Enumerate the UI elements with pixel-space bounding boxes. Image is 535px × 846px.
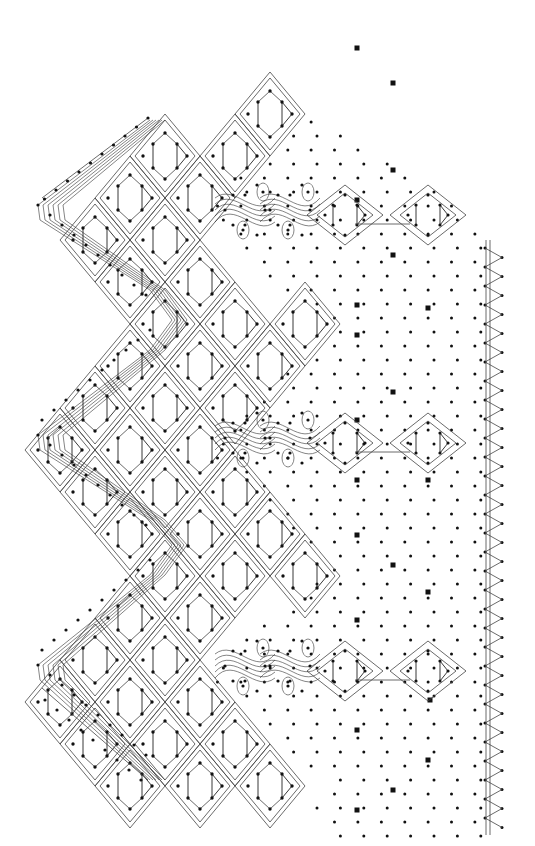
ground-pin [403,569,406,572]
cell-pin [80,448,83,451]
ground-pin [333,821,336,824]
headside-pin [91,738,94,741]
ground-pin [456,639,459,642]
square-marker-pin [355,303,360,308]
ground-pin [479,779,482,782]
ground-pin [409,807,412,810]
square-marker-pin [426,758,431,763]
ground-pin [409,219,412,222]
cell-pin [186,352,189,355]
square-marker-pin [355,808,360,813]
headside-pin [148,328,151,331]
ground-pin [333,345,336,348]
cell-pin [81,670,84,673]
ground-pin [479,807,482,810]
cell-pin [116,544,119,547]
cell-pin [128,303,131,306]
cell-pin [186,712,189,715]
cell-pin [163,177,166,180]
ground-pin [356,737,359,740]
ground-pin [409,611,412,614]
cell-pin [185,574,188,577]
cell-pin [175,730,178,733]
ground-pin [356,541,359,544]
ground-pin [269,695,272,698]
cell-pin [128,807,131,810]
ground-pin [316,191,319,194]
ground-pin [433,247,436,250]
ground-pin [450,373,453,376]
ground-pin [316,275,319,278]
ground-pin [333,373,336,376]
ground-pin [356,597,359,600]
cell-pin [221,166,224,169]
ground-pin [239,233,242,236]
ground-pin [339,471,342,474]
ground-pin [456,415,459,418]
ground-pin [333,765,336,768]
cell-pin [106,196,109,199]
ground-pin [456,527,459,530]
headside-pin [79,728,82,731]
cell-pin [70,688,73,691]
cell-pin [151,334,154,337]
spider-pin [243,193,246,196]
headside-pin [136,338,139,341]
ground-pin [356,345,359,348]
cell-pin [325,322,328,325]
cell-pin [290,364,293,367]
trail-diamond [390,413,466,473]
cell-pin [81,502,84,505]
ground-pin [450,625,453,628]
ground-pin [316,723,319,726]
ground-pin [403,401,406,404]
cell-pin [210,712,213,715]
cell-pin [128,555,131,558]
headside-pin [144,753,147,756]
cell-pin [151,646,154,649]
ground-pin [427,513,430,516]
ground-pin [286,401,289,404]
ground-pin [333,233,336,236]
cell-pin [116,628,119,631]
ground-pin [433,499,436,502]
cell-pin [186,268,189,271]
cell-pin [245,166,248,169]
cell-pin [141,490,144,493]
ground-pin [386,723,389,726]
ground-pin [409,387,412,390]
cell-pin [291,586,294,589]
square-marker-pin [391,253,396,258]
ground-pin [316,611,319,614]
ground-pin [427,821,430,824]
ground-pin [450,821,453,824]
cell-pin [115,658,118,661]
ground-pin [316,135,319,138]
trail-pin [331,451,334,454]
cell-pin [141,322,144,325]
ground-pin [339,667,342,670]
ground-pin [362,247,365,250]
cell-pin [175,418,178,421]
cell-pin [280,796,283,799]
ground-pin [292,499,295,502]
ground-pin [245,639,248,642]
ground-pin [433,555,436,558]
ground-pin [292,387,295,390]
cell-pin [116,292,119,295]
ground-pin [339,387,342,390]
ground-pin [433,751,436,754]
trail-diamond [390,641,466,701]
spider-pin [223,664,226,667]
ground-pin [310,765,313,768]
cell-pin [198,471,201,474]
ground-pin [356,317,359,320]
cell-pin [186,520,189,523]
cell-pin [210,520,213,523]
ground-pin [386,415,389,418]
ground-pin [427,793,430,796]
headside-pin [88,378,91,381]
ground-pin [456,667,459,670]
ground-pin [386,835,389,838]
ground-pin [380,345,383,348]
